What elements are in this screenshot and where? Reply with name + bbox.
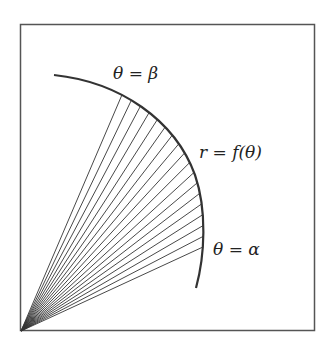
spoke-line xyxy=(21,106,140,331)
label-theta-beta: θ = β xyxy=(113,63,158,83)
spoke-line xyxy=(21,193,200,331)
spoke-line xyxy=(21,183,197,331)
spoke-line xyxy=(21,100,131,331)
label-curve-equation: r = f(θ) xyxy=(199,142,262,162)
radial-spokes xyxy=(21,95,203,331)
spoke-line xyxy=(21,135,172,331)
label-theta-alpha: θ = α xyxy=(213,239,260,259)
frame xyxy=(21,25,315,331)
spoke-line xyxy=(21,225,203,331)
spoke-line xyxy=(21,144,179,331)
spoke-line xyxy=(21,127,165,331)
polar-area-diagram: θ = β r = f(θ) θ = α xyxy=(0,0,332,353)
polar-curve xyxy=(54,75,203,288)
